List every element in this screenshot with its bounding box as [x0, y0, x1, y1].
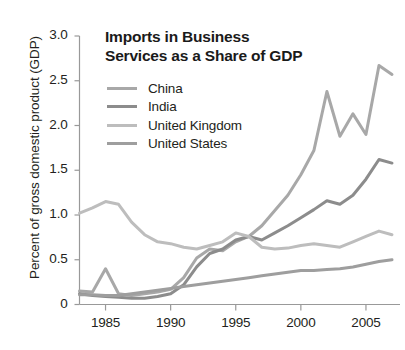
x-tick-label: 1995 [211, 315, 261, 330]
series-line-united-states [80, 260, 393, 296]
y-tick-label: 0.5 [28, 251, 68, 266]
y-tick-label: 2.5 [28, 72, 68, 87]
x-tick-label: 2005 [341, 315, 391, 330]
x-tick-label: 1985 [81, 315, 131, 330]
y-tick-label: 1.5 [28, 161, 68, 176]
y-tick-label: 2.0 [28, 117, 68, 132]
y-tick-label: 0 [28, 296, 68, 311]
series-line-china [80, 66, 393, 296]
x-tick-label: 2000 [276, 315, 326, 330]
y-tick-label: 1.0 [28, 206, 68, 221]
series-line-india [80, 160, 393, 299]
y-tick-label: 3.0 [28, 27, 68, 42]
chart-figure: Percent of gross domestic product (GDP) … [0, 0, 405, 350]
x-tick-label: 1990 [146, 315, 196, 330]
